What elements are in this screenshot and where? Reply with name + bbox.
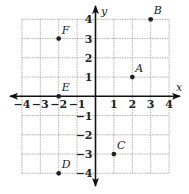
x-tick-label: 2 [128,98,136,111]
point-dot-icon [112,152,117,157]
point-label: E [61,81,70,94]
x-tick-label: 4 [165,98,173,111]
x-tick-label: 1 [110,98,118,111]
point-label: D [61,158,71,171]
axes [9,5,181,187]
x-tick-label: −4 [13,98,30,111]
coordinate-plane: −4−3−2−112344321−1−2−3−4 ABCDEF x y [0,0,189,194]
y-tick-label: −1 [76,110,93,123]
x-tick-label: −2 [50,98,67,111]
y-axis-label: y [100,5,108,18]
y-tick-label: −4 [76,167,93,180]
x-tick-label: 3 [147,98,155,111]
point-dot-icon [56,94,61,99]
y-tick-label: 4 [85,13,93,26]
data-points: ABCDEF [56,4,161,175]
point-dot-icon [130,75,135,80]
point-dot-icon [56,171,61,176]
point-label: A [134,62,143,75]
y-tick-label: 2 [85,52,93,65]
y-tick-label: −3 [76,148,93,161]
y-tick-label: 1 [85,71,93,84]
point-dot-icon [56,36,61,41]
y-tick-label: −2 [76,129,93,142]
y-tick-label: 3 [85,33,93,46]
point-label: C [117,139,126,152]
point-label: F [61,24,70,37]
x-axis-label: x [176,81,183,94]
x-tick-label: −3 [32,98,49,111]
point-label: B [153,4,162,17]
point-dot-icon [148,17,153,22]
